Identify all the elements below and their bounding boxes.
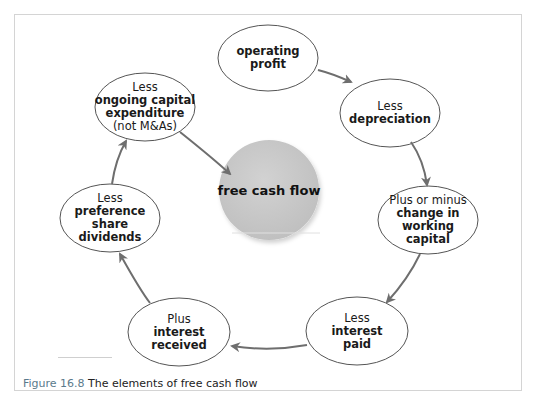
- node-line: depreciation: [349, 113, 431, 126]
- arrow-working-capital-to-interest-paid: [387, 254, 420, 302]
- node-line: paid: [331, 338, 382, 351]
- figure-title: The elements of free cash flow: [88, 377, 257, 390]
- node-line: dividends: [75, 231, 146, 244]
- node-working-capital: Plus or minus change in working capital: [389, 194, 466, 246]
- arrow-interest-paid-to-interest-received: [232, 345, 307, 349]
- node-operating-profit: operating profit: [236, 45, 299, 71]
- node-line: capital: [389, 233, 466, 246]
- node-capital-expenditure: Less ongoing capital expenditure (not M&…: [95, 81, 196, 133]
- arrow-dividends-to-capex: [112, 141, 126, 184]
- node-depreciation: Less depreciation: [349, 100, 431, 126]
- arrow-interest-received-to-dividends: [120, 254, 150, 303]
- node-line: received: [151, 339, 207, 352]
- node-interest-received: Plus interest received: [151, 313, 207, 352]
- decorative-rule: [58, 357, 112, 358]
- free-cash-flow-label: free cash flow: [218, 183, 321, 198]
- figure-number: Figure 16.8: [23, 377, 85, 390]
- node-note: (not M&As): [95, 120, 196, 133]
- arrow-capex-to-free-cash-flow: [180, 132, 230, 174]
- arrow-depreciation-to-working-capital: [411, 142, 427, 185]
- node-preference-dividends: Less preference share dividends: [75, 192, 146, 244]
- arrow-profit-to-depreciation: [318, 70, 351, 82]
- node-line: profit: [236, 58, 299, 71]
- figure-caption: Figure 16.8 The elements of free cash fl…: [23, 377, 258, 390]
- node-interest-paid: Less interest paid: [331, 312, 382, 351]
